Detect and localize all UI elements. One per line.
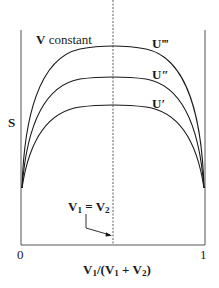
entropy-mixing-diagram [0,0,219,288]
x-tick-0: 0 [17,248,24,261]
annotation-v1-equals-v2: V1 = V2 [68,200,110,215]
y-axis-label: S [8,116,15,129]
arrowhead-icon [106,232,113,236]
x-axis-label: V1/(V1 + V2) [83,263,151,278]
title-label: V constant [36,33,92,46]
curve-label-u-double-prime: U″ [152,68,169,81]
curve-label-u-prime: U′ [152,97,165,110]
curve-u-double-prime [22,77,204,188]
annotation-arrow-line [86,214,110,235]
curve-label-u-triple-prime: U‴ [152,37,169,50]
x-tick-1: 1 [200,248,207,261]
